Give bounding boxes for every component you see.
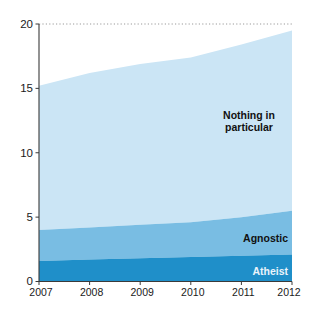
chart-canvas: 20 15 10 5 0 2007 2008 2009 2010 2011 20…	[0, 0, 309, 310]
series-label-atheist: Atheist	[252, 265, 288, 277]
y-tick-label-15: 15	[20, 82, 33, 94]
y-tick-label-20: 20	[20, 18, 33, 30]
x-tick-label-2010: 2010	[181, 286, 205, 298]
x-tick-label-2007: 2007	[29, 286, 53, 298]
stacked-area-chart: 20 15 10 5 0 2007 2008 2009 2010 2011 20…	[0, 0, 309, 310]
series-label-agnostic: Agnostic	[243, 232, 288, 244]
y-tick-label-5: 5	[27, 211, 33, 223]
x-tick-label-2009: 2009	[131, 286, 155, 298]
x-tick-label-2011: 2011	[232, 286, 255, 298]
series-label-nothing-in-particular-line2: particular	[225, 121, 273, 133]
x-tick-label-2012: 2012	[277, 286, 301, 298]
figure-bottom-margin	[0, 300, 309, 310]
x-tick-label-2008: 2008	[80, 286, 104, 298]
y-tick-label-10: 10	[20, 147, 33, 159]
series-label-nothing-in-particular-line1: Nothing in	[223, 109, 275, 121]
